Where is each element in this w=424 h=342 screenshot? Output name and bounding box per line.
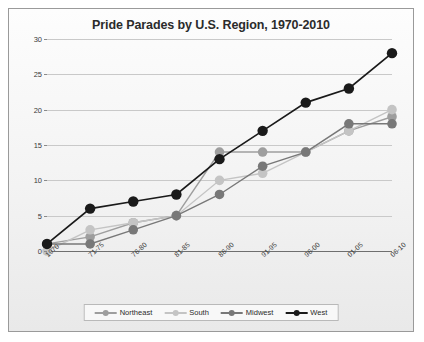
- y-axis-tick-label: 5: [38, 211, 42, 220]
- data-point: [344, 119, 354, 129]
- data-point: [215, 176, 225, 186]
- data-point: [171, 189, 181, 199]
- y-axis-tick-mark: [44, 145, 47, 146]
- legend-marker-icon: [95, 308, 117, 317]
- data-point: [214, 154, 224, 164]
- y-axis-tick-mark: [44, 110, 47, 111]
- data-point: [128, 225, 138, 235]
- data-point: [301, 97, 311, 107]
- y-axis-tick-label: 25: [34, 70, 42, 79]
- legend-item-northeast[interactable]: Northeast: [95, 308, 153, 317]
- legend-dot: [103, 310, 109, 316]
- data-point: [344, 83, 354, 93]
- data-point: [257, 126, 267, 136]
- plot-area: 051015202530: [47, 39, 392, 251]
- data-point: [128, 196, 138, 206]
- y-axis-tick-label: 10: [34, 176, 42, 185]
- y-axis-tick-label: 30: [34, 35, 42, 44]
- data-point: [215, 190, 225, 200]
- legend-dot: [229, 310, 235, 316]
- legend-item-label: South: [189, 308, 209, 317]
- legend-item-west[interactable]: West: [285, 308, 327, 317]
- series-lines-layer: [47, 39, 392, 251]
- y-axis-tick-mark: [44, 180, 47, 181]
- chart-legend: NortheastSouthMidwestWest: [84, 304, 339, 321]
- legend-item-label: Northeast: [120, 308, 153, 317]
- legend-item-label: Midwest: [246, 308, 274, 317]
- legend-dot: [293, 310, 299, 316]
- chart-title: Pride Parades by U.S. Region, 1970-2010: [9, 18, 413, 32]
- legend-dot: [172, 310, 178, 316]
- data-point: [387, 105, 397, 115]
- legend-item-label: West: [310, 308, 327, 317]
- y-axis-tick-label: 0: [38, 247, 42, 256]
- data-point: [301, 147, 311, 157]
- legend-item-south[interactable]: South: [164, 308, 209, 317]
- legend-marker-icon: [221, 308, 243, 317]
- chart-container: Pride Parades by U.S. Region, 1970-2010 …: [8, 8, 414, 332]
- y-axis-tick-mark: [44, 216, 47, 217]
- y-axis-tick-label: 20: [34, 105, 42, 114]
- legend-marker-icon: [285, 308, 307, 317]
- data-point: [258, 161, 268, 171]
- data-point: [258, 147, 268, 157]
- data-point: [85, 225, 95, 235]
- data-point: [85, 203, 95, 213]
- y-axis-tick-mark: [44, 74, 47, 75]
- legend-item-midwest[interactable]: Midwest: [221, 308, 274, 317]
- data-point: [387, 48, 397, 58]
- data-point: [387, 119, 397, 129]
- x-axis-labels: 197071-7576-8081-8586-9091-9596-0001-050…: [47, 253, 392, 303]
- legend-marker-icon: [164, 308, 186, 317]
- y-axis-tick-mark: [44, 39, 47, 40]
- y-axis-tick-label: 15: [34, 141, 42, 150]
- data-point: [172, 211, 182, 221]
